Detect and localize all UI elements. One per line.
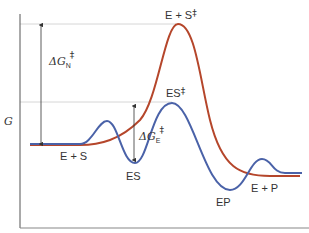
uncat-transition-label: E + S‡: [165, 8, 197, 21]
es-transition-label: ES‡: [166, 86, 186, 99]
es-complex-label: ES: [126, 170, 141, 182]
products-label: E + P: [251, 182, 278, 194]
y-axis-label: G: [4, 115, 13, 128]
delta-g-e-label: ΔGE‡: [138, 125, 164, 144]
ep-complex-label: EP: [216, 196, 231, 208]
free-energy-diagram: G ΔGN‡ ΔGE‡ E + S‡ ES‡ E + S ES EP E + P: [0, 0, 309, 233]
delta-g-n-label: ΔGN‡: [48, 50, 75, 69]
catalyzed-curve: [30, 103, 302, 190]
reactants-label: E + S: [60, 150, 87, 162]
